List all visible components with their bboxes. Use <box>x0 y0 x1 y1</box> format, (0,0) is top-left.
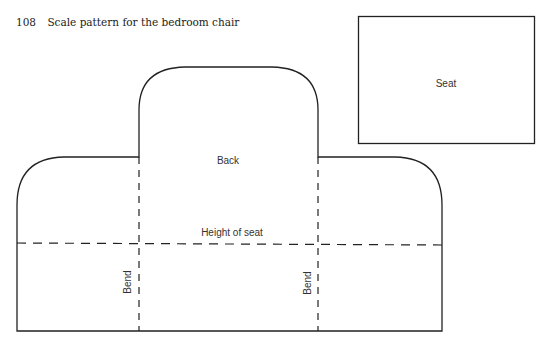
bend-label-right: Bend <box>302 271 313 294</box>
back-label: Back <box>217 155 240 166</box>
pattern-diagram: Seat Back Height of seat Bend Bend <box>0 0 552 350</box>
height-of-seat-line <box>17 243 442 245</box>
height-of-seat-label: Height of seat <box>201 227 263 238</box>
back-piece: Back Height of seat Bend Bend <box>17 67 442 331</box>
back-outline <box>17 67 442 331</box>
bend-label-left: Bend <box>122 270 133 293</box>
seat-label: Seat <box>436 78 457 89</box>
seat-piece: Seat <box>359 17 535 144</box>
